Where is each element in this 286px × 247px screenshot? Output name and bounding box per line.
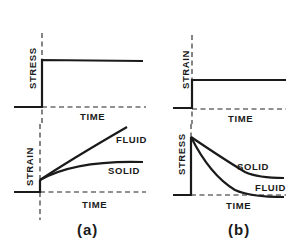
solid-curve-label: SOLID [108,165,140,176]
fluid-curve-label: FLUID [255,182,286,193]
x-axis-label: TIME [80,111,105,122]
y-axis-label: STRAIN [24,147,35,186]
panel-b-strain-plot: STRAIN TIME [173,35,286,124]
x-axis-label: TIME [228,113,253,124]
x-axis-label: TIME [82,199,107,210]
panel-caption: (a) [77,221,98,238]
x-axis-label: TIME [226,200,251,211]
panel-caption: (b) [228,221,250,238]
panel-a: STRESS TIME STRAIN FLUID SOLID TIME (a) [14,33,147,238]
y-axis-label: STRESS [176,133,187,175]
panel-b: STRAIN TIME STRESS SOLID FLUID TIME (b) [173,35,286,238]
viscoelastic-response-diagram: STRESS TIME STRAIN FLUID SOLID TIME (a) … [0,0,286,247]
y-axis-label: STRESS [27,47,38,89]
panel-b-stress-plot: STRESS SOLID FLUID TIME [173,124,286,211]
fluid-curve-label: FLUID [116,134,147,145]
panel-a-strain-plot: STRAIN FLUID SOLID TIME [14,124,147,220]
solid-curve-label: SOLID [237,161,269,172]
panel-a-stress-plot: STRESS TIME [14,33,146,124]
y-axis-label: STRAIN [180,50,191,89]
